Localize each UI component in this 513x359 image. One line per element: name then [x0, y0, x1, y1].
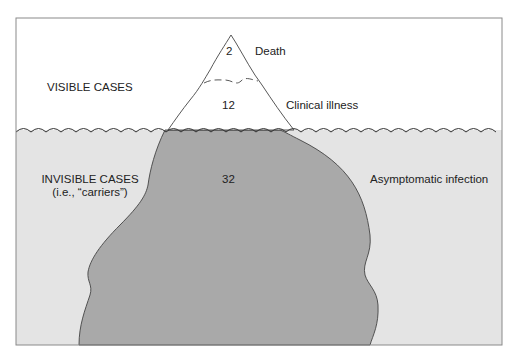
iceberg-diagram: VISIBLE CASES INVISIBLE CASES (i.e., “ca…	[0, 0, 513, 359]
visible-cases-label: VISIBLE CASES	[47, 81, 133, 94]
clinical-illness-count: 12	[222, 99, 235, 111]
death-label: Death	[255, 45, 286, 58]
clinical-illness-label: Clinical illness	[286, 99, 358, 112]
asymptomatic-count: 32	[222, 173, 235, 185]
carriers-label: (i.e., “carriers”)	[40, 186, 140, 199]
invisible-cases-label: INVISIBLE CASES	[40, 173, 140, 186]
asymptomatic-label: Asymptomatic infection	[370, 173, 488, 186]
death-count: 2	[226, 45, 232, 57]
